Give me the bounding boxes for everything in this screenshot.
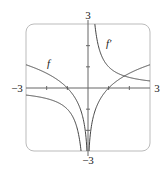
y-max-label: 3 [85,9,91,21]
x-max-label: 3 [154,82,160,94]
curve-f-right-branch [88,63,154,171]
curve-fprime-right-branch [91,0,154,81]
axes [26,20,150,156]
y-min-label: −3 [82,154,94,166]
curve-label-fprime: f′ [106,37,112,49]
curve-fprime-left-branch [22,95,85,171]
curve-f-left-branch [22,63,88,171]
function-plot: 3 −3 −3 3 f f′ [0,0,168,171]
curve-label-f: f [47,57,52,69]
x-min-label: −3 [11,82,23,94]
